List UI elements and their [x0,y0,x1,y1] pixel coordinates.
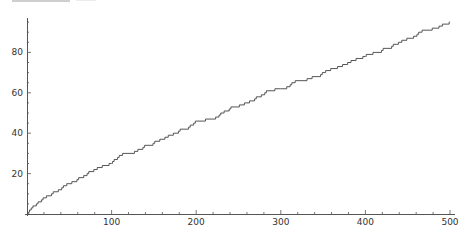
tick-labels: 10020030040050020406080 [12,47,459,227]
y-tick-label: 40 [12,128,24,138]
y-tick-label: 60 [12,88,24,98]
line-chart: 10020030040050020406080 [0,0,468,236]
y-tick-label: 20 [12,169,24,179]
x-tick-label: 400 [357,217,374,227]
data-line [27,22,450,214]
ticks [27,22,450,214]
x-tick-label: 300 [272,217,289,227]
x-tick-label: 100 [103,217,120,227]
axes [25,18,455,216]
x-tick-label: 500 [441,217,458,227]
x-tick-label: 200 [188,217,205,227]
y-tick-label: 80 [12,47,24,57]
